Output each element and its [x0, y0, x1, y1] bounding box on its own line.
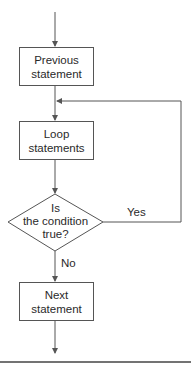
loop-statements-box: Loop statements	[19, 121, 94, 160]
next-line1: Next	[45, 288, 69, 302]
condition-line1: Is	[8, 202, 103, 215]
no-label: No	[61, 257, 76, 269]
next-statement-box: Next statement	[19, 282, 94, 321]
loop-line1: Loop	[44, 127, 70, 141]
condition-line3: true?	[8, 228, 103, 241]
previous-line2: statement	[31, 67, 82, 81]
yes-label: Yes	[127, 206, 146, 218]
previous-line1: Previous	[34, 53, 79, 67]
next-line2: statement	[31, 302, 82, 316]
previous-statement-box: Previous statement	[19, 47, 94, 86]
condition-decision: Is the condition true?	[8, 202, 103, 241]
condition-line2: the condition	[8, 215, 103, 228]
loop-line2: statements	[28, 141, 84, 155]
